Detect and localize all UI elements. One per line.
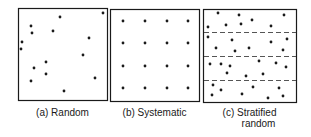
panel-frame bbox=[19, 9, 108, 101]
sample-point bbox=[122, 20, 125, 23]
sample-point bbox=[45, 61, 48, 64]
sample-point bbox=[220, 63, 223, 66]
sample-point bbox=[31, 32, 34, 35]
sample-point bbox=[207, 36, 210, 39]
sample-point bbox=[226, 72, 229, 75]
sample-point bbox=[166, 42, 169, 45]
sample-point bbox=[282, 49, 285, 52]
sample-point bbox=[144, 87, 147, 90]
sample-point bbox=[21, 41, 24, 44]
sample-point bbox=[248, 47, 251, 50]
sample-point bbox=[187, 87, 190, 90]
caption-stratified-line2: random bbox=[212, 118, 305, 129]
sample-point bbox=[122, 87, 125, 90]
sample-point bbox=[225, 24, 228, 27]
sample-point bbox=[217, 12, 220, 15]
panel-systematic bbox=[111, 10, 200, 102]
sample-point bbox=[102, 12, 105, 15]
sample-point bbox=[20, 48, 23, 51]
sample-point bbox=[166, 20, 169, 23]
sample-point bbox=[229, 65, 232, 68]
sample-point bbox=[267, 97, 270, 100]
caption-systematic: (b) Systematic bbox=[108, 107, 201, 118]
sample-point bbox=[30, 80, 33, 83]
sample-point bbox=[166, 87, 169, 90]
sample-point bbox=[258, 60, 261, 63]
sample-point bbox=[212, 84, 215, 87]
sample-point bbox=[238, 14, 241, 17]
sample-point bbox=[30, 25, 33, 28]
sample-point bbox=[52, 30, 55, 33]
sample-point bbox=[122, 65, 125, 68]
sample-point bbox=[245, 75, 248, 78]
sample-point bbox=[187, 65, 190, 68]
sample-point bbox=[207, 26, 210, 29]
caption-random: (a) Random bbox=[18, 107, 107, 118]
sample-point bbox=[252, 86, 255, 89]
sample-point bbox=[278, 87, 281, 90]
sample-point bbox=[231, 39, 234, 42]
sample-point bbox=[282, 95, 285, 98]
sample-point bbox=[122, 42, 125, 45]
sample-point bbox=[88, 37, 91, 40]
panel-random bbox=[19, 9, 108, 101]
sample-point bbox=[187, 42, 190, 45]
sample-point bbox=[251, 19, 254, 22]
sample-point bbox=[94, 77, 97, 80]
sample-point bbox=[270, 41, 273, 44]
sample-point bbox=[234, 50, 237, 53]
sample-point bbox=[283, 14, 286, 17]
caption-stratified-line1: (c) Stratified bbox=[203, 107, 296, 118]
panel-frame bbox=[204, 10, 297, 103]
sample-point bbox=[215, 47, 218, 50]
sample-point bbox=[275, 62, 278, 65]
sample-point bbox=[82, 54, 85, 57]
sample-point bbox=[63, 90, 66, 93]
sample-point bbox=[211, 94, 214, 97]
sample-point bbox=[262, 73, 265, 76]
sample-point bbox=[286, 38, 289, 41]
sample-point bbox=[45, 73, 48, 76]
sample-point bbox=[285, 66, 288, 69]
sample-point bbox=[144, 42, 147, 45]
sample-point bbox=[209, 63, 212, 66]
sample-point bbox=[33, 67, 36, 70]
sample-point bbox=[166, 65, 169, 68]
sample-point bbox=[144, 20, 147, 23]
sample-point bbox=[59, 16, 62, 19]
sample-point bbox=[144, 65, 147, 68]
sample-point bbox=[241, 93, 244, 96]
sample-point bbox=[220, 89, 223, 92]
sample-point bbox=[187, 20, 190, 23]
panel-stratified bbox=[204, 10, 297, 103]
sample-point bbox=[240, 23, 243, 26]
sample-point bbox=[270, 25, 273, 28]
